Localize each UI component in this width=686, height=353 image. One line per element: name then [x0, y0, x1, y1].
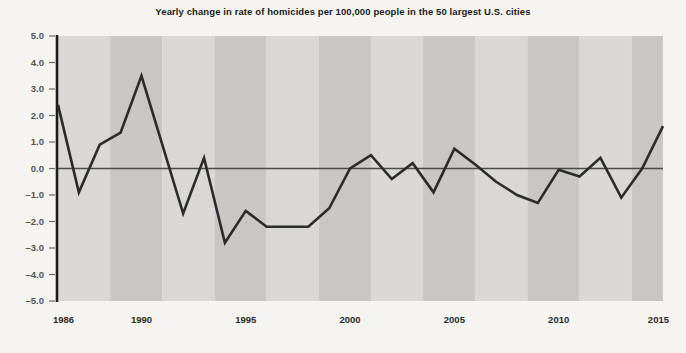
y-tick-label: 3.0 — [31, 83, 44, 94]
y-axis-tick-labels: 5.04.03.02.01.00.0–1.0–2.0–3.0–4.0–5.0 — [26, 30, 45, 306]
y-tick-label: –2.0 — [26, 216, 45, 227]
x-tick-label: 1986 — [53, 314, 74, 325]
y-tick-label: 2.0 — [31, 110, 44, 121]
y-tick-label: 1.0 — [31, 136, 44, 147]
line-chart-svg: 5.04.03.02.01.00.0–1.0–2.0–3.0–4.0–5.0 1… — [0, 0, 686, 353]
y-tick-label: 0.0 — [31, 163, 44, 174]
y-tick-label: 5.0 — [31, 30, 44, 41]
plot-area: 5.04.03.02.01.00.0–1.0–2.0–3.0–4.0–5.0 1… — [0, 0, 686, 353]
y-tick-label: –5.0 — [26, 295, 45, 306]
x-tick-label: 2015 — [648, 314, 670, 325]
y-tick-label: –1.0 — [26, 189, 45, 200]
x-tick-label: 2000 — [339, 314, 360, 325]
x-tick-label: 1990 — [131, 314, 152, 325]
chart-container: Yearly change in rate of homicides per 1… — [0, 0, 686, 353]
x-tick-label: 2005 — [444, 314, 466, 325]
y-tick-label: –3.0 — [26, 242, 45, 253]
x-tick-label: 2010 — [548, 314, 569, 325]
y-tick-label: –4.0 — [26, 269, 45, 280]
x-axis-tick-labels: 1986199019952000200520102015 — [53, 314, 670, 325]
y-tick-label: 4.0 — [31, 57, 44, 68]
y-axis-tick-marks — [49, 36, 55, 301]
x-tick-label: 1995 — [235, 314, 257, 325]
